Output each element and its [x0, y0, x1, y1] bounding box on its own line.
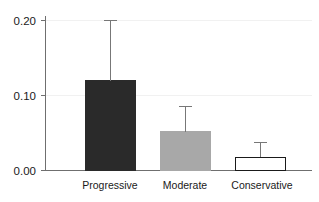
bar-progressive[interactable]	[85, 81, 135, 171]
y-tick-label-0.00: 0.00	[14, 165, 36, 177]
chart-canvas: 0.20 0.10 0.00 Progressive Moderate Cons…	[0, 0, 319, 202]
bar-chart-figure: 0.20 0.10 0.00 Progressive Moderate Cons…	[0, 0, 319, 202]
x-axis-label-moderate: Moderate	[163, 179, 208, 191]
x-axis-label-conservative: Conservative	[231, 179, 292, 191]
bar-moderate[interactable]	[160, 132, 210, 171]
bar-conservative[interactable]	[235, 157, 285, 171]
y-tick-label-0.10: 0.10	[14, 90, 36, 102]
x-axis-label-progressive: Progressive	[82, 179, 138, 191]
chart-background	[0, 0, 319, 202]
y-tick-label-0.20: 0.20	[14, 15, 36, 27]
